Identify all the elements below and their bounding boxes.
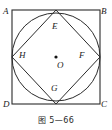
center-label-o: O: [57, 61, 64, 70]
vertex-label-h: H: [19, 51, 26, 60]
vertex-label-d: D: [3, 100, 10, 109]
figure-caption: 图 5—66: [0, 116, 112, 126]
geometry-figure: A B C D E F G H O 图 5—66: [0, 0, 112, 130]
vertex-label-b: B: [101, 7, 107, 16]
vertex-label-c: C: [101, 100, 107, 109]
geometry-diagram: [0, 0, 112, 130]
center-point-dot: [54, 55, 57, 58]
vertex-label-a: A: [3, 7, 9, 16]
vertex-label-e: E: [52, 22, 58, 31]
vertex-label-g: G: [51, 84, 58, 93]
vertex-label-f: F: [79, 51, 85, 60]
